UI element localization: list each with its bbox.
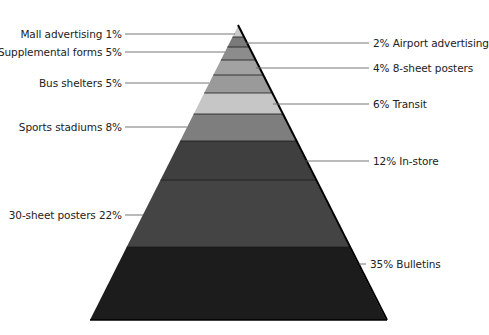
layer-transit [194, 93, 283, 114]
label-airport-advertising: 2% Airport advertising [373, 37, 489, 49]
label-30-sheet-posters: 30-sheet posters 22% [9, 209, 122, 221]
layer-bulletins [90, 247, 386, 320]
label-supplemental-forms: Supplemental forms 5% [0, 46, 122, 58]
label-bus-shelters: Bus shelters 5% [39, 77, 122, 89]
layer-sports-stadiums [180, 114, 296, 141]
label-bulletins: 35% Bulletins [370, 258, 441, 270]
label-sports-stadiums: Sports stadiums 8% [19, 121, 122, 133]
label-in-store: 12% In-store [373, 155, 439, 167]
label-transit: 6% Transit [373, 98, 427, 110]
label-8-sheet-posters: 4% 8-sheet posters [373, 62, 473, 74]
layer-30-sheet-posters [127, 180, 350, 247]
layer-in-store [161, 141, 316, 180]
label-mall-advertising: Mall advertising 1% [20, 28, 122, 40]
layer-8-sheet-posters [213, 60, 262, 75]
layer-bus-shelters [204, 75, 272, 93]
